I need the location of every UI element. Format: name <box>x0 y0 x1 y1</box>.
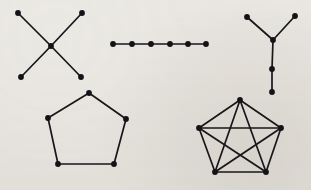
complete-graph <box>196 97 284 175</box>
graph-vertex <box>237 97 243 103</box>
graph-edge <box>199 128 266 172</box>
tree-graph <box>244 13 298 95</box>
graph-edge <box>240 100 266 172</box>
graph-edge <box>215 128 281 172</box>
tree-graph-vertices <box>244 13 298 95</box>
graph-edge <box>199 100 240 128</box>
graph-vertex <box>196 125 202 131</box>
graph-vertex <box>55 161 61 167</box>
graph-vertex <box>18 74 24 80</box>
star-graph <box>15 10 85 80</box>
graph-edge <box>266 128 281 172</box>
graph-edge <box>114 119 126 164</box>
graph-edge <box>21 46 51 77</box>
graph-edge <box>51 13 82 46</box>
graph-figure-canvas <box>0 0 311 190</box>
graph-vertex <box>167 41 173 47</box>
graph-vertex <box>269 89 275 95</box>
graph-edge <box>48 93 89 118</box>
graph-vertex <box>244 14 250 20</box>
graph-vertex <box>269 66 275 72</box>
graph-edge <box>51 46 81 77</box>
graph-edge <box>18 13 51 46</box>
graph-vertex <box>263 169 269 175</box>
graph-vertex <box>79 10 85 16</box>
graph-vertex <box>212 169 218 175</box>
graph-vertex <box>110 41 116 47</box>
graph-vertex <box>292 13 298 19</box>
graph-vertex <box>148 41 154 47</box>
graph-edge <box>48 118 58 164</box>
tree-graph-edges <box>247 16 295 92</box>
path-graph <box>110 41 209 47</box>
graph-vertex <box>45 115 51 121</box>
graph-vertex <box>86 90 92 96</box>
graph-vertex <box>15 10 21 16</box>
graph-edge <box>240 100 281 128</box>
graph-vertex <box>185 41 191 47</box>
pentagon-graph-edges <box>48 93 126 164</box>
graph-diagram-svg <box>0 0 311 190</box>
graph-edge <box>273 16 295 40</box>
graph-vertex <box>48 43 54 49</box>
graph-vertex <box>203 41 209 47</box>
graph-edge <box>215 100 240 172</box>
graph-vertex <box>129 41 135 47</box>
pentagon-graph <box>45 90 129 167</box>
graph-edge <box>272 40 273 69</box>
graph-edge <box>247 17 273 40</box>
graph-vertex <box>123 116 129 122</box>
graph-edge <box>199 128 215 172</box>
complete-graph-vertices <box>196 97 284 175</box>
complete-graph-edges <box>199 100 281 172</box>
graph-vertex <box>78 74 84 80</box>
graph-vertex <box>270 37 276 43</box>
graph-vertex <box>278 125 284 131</box>
graph-vertex <box>111 161 117 167</box>
graph-edge <box>89 93 126 119</box>
